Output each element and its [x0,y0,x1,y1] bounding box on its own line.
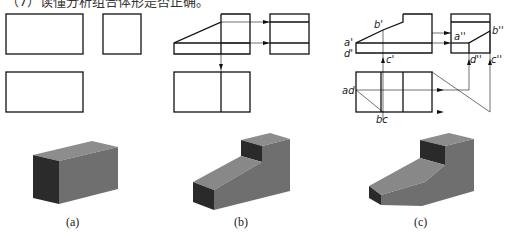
isometric-model-a [33,141,118,204]
label-b-prime: b' [374,19,383,30]
view-a-side [103,14,141,54]
isometric-model-c [369,133,474,206]
view-b-side [270,14,309,54]
view-b-top [174,72,250,112]
label-bc: bc [376,114,388,125]
view-c-top [356,72,432,112]
label-c-prime: c' [386,54,394,65]
view-b-front [174,14,250,54]
label-d-prime: d' [344,48,353,59]
label-b-dprime: b'' [492,25,504,36]
label-d-dprime: d'' [470,54,482,65]
label-ad: ad [342,85,355,96]
caption-c: (c) [414,215,427,229]
label-c-dprime: c'' [491,54,502,65]
view-a-front [6,14,83,54]
label-a-dprime: a'' [454,31,466,42]
label-a-prime: a' [344,37,353,48]
view-c-front [356,14,432,53]
caption-b: (b) [234,215,248,229]
isometric-model-b [193,133,290,210]
view-a-top [6,72,83,112]
diagram-canvas: b' a' d' c' a'' b'' d'' c'' ad bc (a) (b… [0,0,507,235]
caption-a: (a) [66,215,79,229]
